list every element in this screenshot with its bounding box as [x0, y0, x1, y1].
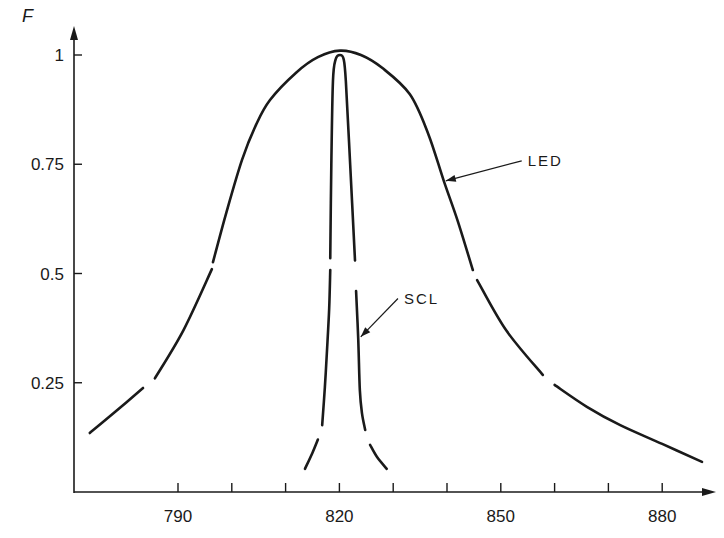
- x-tick-label: 790: [164, 507, 192, 526]
- scl-curve-segment: [305, 440, 318, 469]
- led-arrow-line: [446, 161, 522, 181]
- scl-curve-segment: [322, 270, 330, 425]
- scl-curve-segment: [370, 445, 387, 469]
- y-tick-label: 0.25: [31, 374, 64, 393]
- chart: 7908208508800.250.50.751 F LEDSCL: [0, 0, 724, 538]
- scl-label: SCL: [404, 290, 439, 307]
- x-tick-label: 880: [648, 507, 676, 526]
- led-curve-segment: [213, 51, 473, 270]
- scl-curve-segment: [356, 291, 365, 430]
- led-curve-segment: [477, 280, 543, 375]
- x-axis-arrow: [702, 488, 716, 496]
- y-tick-label: 0.5: [40, 265, 64, 284]
- y-axis-label: F: [22, 6, 34, 26]
- x-tick-label: 820: [325, 507, 353, 526]
- scl-curve-segment: [330, 55, 355, 260]
- y-tick-label: 1: [55, 46, 64, 65]
- led-label: LED: [528, 152, 563, 169]
- series-group: LEDSCL: [90, 51, 702, 469]
- led-arrow-head: [446, 175, 457, 182]
- y-tick-label: 0.75: [31, 155, 64, 174]
- series-led: LED: [90, 51, 702, 462]
- series-scl: SCL: [305, 55, 439, 469]
- led-curve-segment: [90, 388, 143, 433]
- y-axis-arrow: [70, 26, 78, 40]
- x-tick-label: 850: [487, 507, 515, 526]
- led-curve-segment: [555, 385, 702, 462]
- led-curve-segment: [155, 269, 212, 378]
